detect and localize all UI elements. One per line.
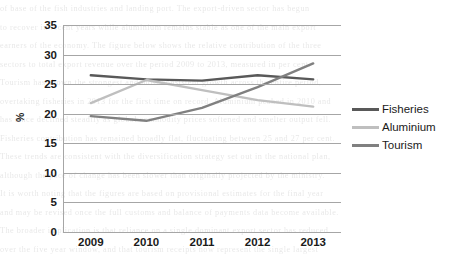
gridline xyxy=(63,84,341,85)
legend-item-label: Tourism xyxy=(382,139,422,151)
legend-item-label: Fisheries xyxy=(382,103,429,115)
legend-item-tourism[interactable]: Tourism xyxy=(352,136,460,154)
legend-swatch-icon xyxy=(352,126,379,129)
gridline xyxy=(63,114,341,115)
y-axis-tick-label: 0 xyxy=(31,226,57,238)
x-axis-tick-label: 2013 xyxy=(285,236,341,248)
legend-item-fisheries[interactable]: Fisheries xyxy=(352,100,460,118)
y-axis-tick-label: 35 xyxy=(31,19,57,31)
y-axis: 35302520151050 xyxy=(27,25,57,232)
y-axis-tick-label: 25 xyxy=(31,78,57,90)
gridline xyxy=(63,25,341,26)
plot-area xyxy=(63,25,341,232)
y-axis-tick-label: 10 xyxy=(31,167,57,179)
gridline xyxy=(63,143,341,144)
line-chart: 35302520151050 % 20092010201120122013 Fi… xyxy=(0,0,465,267)
series-layer xyxy=(63,25,341,232)
legend-item-aluminium[interactable]: Aluminium xyxy=(352,118,460,136)
legend-item-label: Aluminium xyxy=(382,121,436,133)
gridline xyxy=(63,173,341,174)
y-axis-title: % xyxy=(14,113,26,122)
chart-legend: FisheriesAluminiumTourism xyxy=(352,100,460,154)
x-axis: 20092010201120122013 xyxy=(63,236,341,256)
x-axis-tick-label: 2012 xyxy=(230,236,286,248)
legend-swatch-icon xyxy=(352,144,379,147)
series-line-tourism xyxy=(91,63,313,120)
y-axis-tick-label: 30 xyxy=(31,49,57,61)
y-axis-tick-label: 20 xyxy=(31,108,57,120)
gridline xyxy=(63,232,341,233)
x-axis-tick-label: 2010 xyxy=(118,236,174,248)
x-axis-tick-label: 2011 xyxy=(174,236,230,248)
legend-swatch-icon xyxy=(352,108,379,111)
gridline xyxy=(63,202,341,203)
y-axis-tick-label: 5 xyxy=(31,196,57,208)
x-axis-tick-label: 2009 xyxy=(63,236,119,248)
gridline xyxy=(63,55,341,56)
y-axis-tick-label: 15 xyxy=(31,137,57,149)
